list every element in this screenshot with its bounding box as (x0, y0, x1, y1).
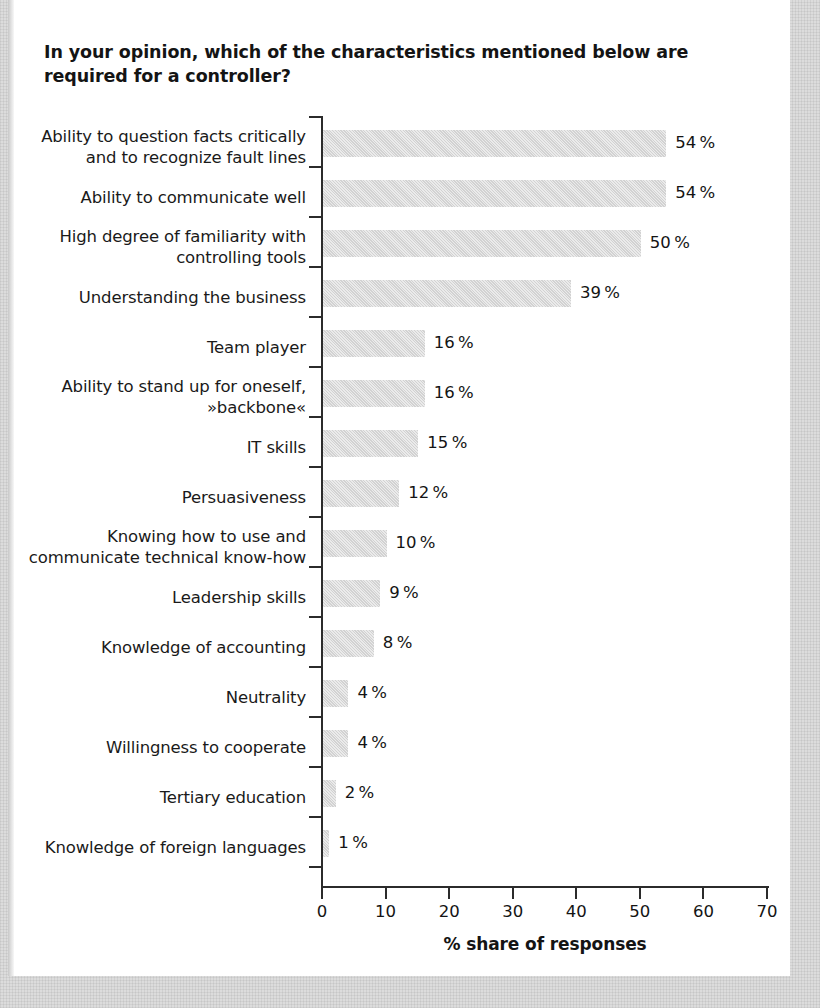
bar-value-label: 39 % (580, 279, 620, 306)
category-label-line: communicate technical know-how (6, 547, 306, 568)
y-axis-tick (309, 516, 321, 518)
category-label: Leadership skills (6, 587, 306, 608)
bar-value-label: 2 % (345, 779, 374, 806)
category-label: Team player (6, 337, 306, 358)
category-label: Ability to communicate well (6, 187, 306, 208)
y-axis-tick (309, 466, 321, 468)
x-axis-tick-label: 0 (297, 902, 347, 921)
x-axis-tick (639, 888, 641, 899)
category-label: Willingness to cooperate (6, 737, 306, 758)
bar (323, 230, 641, 257)
x-axis-tick-label: 40 (551, 902, 601, 921)
y-axis-tick (309, 416, 321, 418)
x-axis-tick (766, 888, 768, 899)
bar (323, 780, 336, 807)
category-label-line: IT skills (6, 437, 306, 458)
category-label-line: Knowing how to use and (6, 526, 306, 547)
category-label-line: Knowledge of foreign languages (6, 837, 306, 858)
bar-value-label: 1 % (338, 829, 367, 856)
y-axis-tick (309, 266, 321, 268)
bar (323, 730, 348, 757)
category-label-line: Team player (6, 337, 306, 358)
y-axis-tick (309, 866, 321, 868)
category-label-line: »backbone« (6, 397, 306, 418)
category-label-line: High degree of familiarity with (6, 226, 306, 247)
x-axis-tick (321, 888, 323, 899)
x-axis-tick-label: 60 (678, 902, 728, 921)
category-label: Persuasiveness (6, 487, 306, 508)
bar-value-label: 12 % (408, 479, 448, 506)
x-axis-tick-label: 70 (742, 902, 792, 921)
category-label: Knowledge of foreign languages (6, 837, 306, 858)
y-axis-tick (309, 116, 321, 118)
bar-value-label: 8 % (383, 629, 412, 656)
bar (323, 330, 425, 357)
y-axis-tick (309, 316, 321, 318)
bar (323, 830, 329, 857)
y-axis-tick (309, 166, 321, 168)
category-label-line: Neutrality (6, 687, 306, 708)
category-label-line: Understanding the business (6, 287, 306, 308)
bar-value-label: 16 % (434, 379, 474, 406)
category-label: Understanding the business (6, 287, 306, 308)
bar-value-label: 9 % (389, 579, 418, 606)
y-axis-tick (309, 616, 321, 618)
category-label: Knowing how to use andcommunicate techni… (6, 526, 306, 568)
bar-value-label: 4 % (357, 729, 386, 756)
category-label: Knowledge of accounting (6, 637, 306, 658)
scan-background: In your opinion, which of the characteri… (0, 0, 820, 1008)
x-axis-tick (385, 888, 387, 899)
y-axis-tick (309, 716, 321, 718)
x-axis-tick (702, 888, 704, 899)
category-label: Tertiary education (6, 787, 306, 808)
x-axis-tick (575, 888, 577, 899)
category-label-line: Tertiary education (6, 787, 306, 808)
bar (323, 630, 374, 657)
x-axis-tick (512, 888, 514, 899)
category-label: Ability to question facts criticallyand … (6, 126, 306, 168)
y-axis-tick (309, 566, 321, 568)
category-label: Neutrality (6, 687, 306, 708)
bar (323, 430, 418, 457)
y-axis-tick (309, 816, 321, 818)
bar-value-label: 15 % (427, 429, 467, 456)
bar (323, 180, 666, 207)
bar-value-label: 50 % (650, 229, 690, 256)
category-label-line: Ability to communicate well (6, 187, 306, 208)
bar (323, 480, 399, 507)
x-axis-tick-label: 50 (615, 902, 665, 921)
category-label-line: Ability to stand up for oneself, (6, 376, 306, 397)
bar (323, 380, 425, 407)
category-label-line: Persuasiveness (6, 487, 306, 508)
document-page: In your opinion, which of the characteri… (14, 0, 790, 976)
bar (323, 130, 666, 157)
bar-value-label: 10 % (396, 529, 436, 556)
bar (323, 680, 348, 707)
category-label: Ability to stand up for oneself,»backbon… (6, 376, 306, 418)
y-axis-tick (309, 216, 321, 218)
bar-value-label: 16 % (434, 329, 474, 356)
category-label-line: and to recognize fault lines (6, 147, 306, 168)
category-label-line: Knowledge of accounting (6, 637, 306, 658)
category-label: IT skills (6, 437, 306, 458)
bar-value-label: 54 % (675, 179, 715, 206)
bar (323, 530, 387, 557)
bar (323, 580, 380, 607)
y-axis-tick (309, 766, 321, 768)
category-label-line: controlling tools (6, 247, 306, 268)
y-axis-tick (309, 666, 321, 668)
x-axis-title: % share of responses (321, 934, 769, 954)
x-axis-tick-label: 10 (361, 902, 411, 921)
x-axis-tick-label: 30 (488, 902, 538, 921)
bar-value-label: 4 % (357, 679, 386, 706)
category-label-line: Willingness to cooperate (6, 737, 306, 758)
category-label-line: Ability to question facts critically (6, 126, 306, 147)
bar (323, 280, 571, 307)
bar-chart: % share of responses Ability to question… (14, 0, 790, 976)
bar-value-label: 54 % (675, 129, 715, 156)
y-axis-tick (309, 366, 321, 368)
category-label-line: Leadership skills (6, 587, 306, 608)
x-axis-tick (448, 888, 450, 899)
x-axis-tick-label: 20 (424, 902, 474, 921)
category-label: High degree of familiarity withcontrolli… (6, 226, 306, 268)
